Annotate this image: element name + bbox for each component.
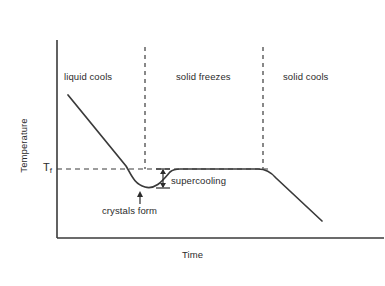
y-axis-label: Temperature: [18, 101, 29, 191]
tf-subscript: f: [50, 166, 52, 175]
region-label-solid-cools: solid cools: [283, 71, 328, 82]
annotation-label-supercooling: supercooling: [171, 175, 226, 186]
cooling-curve: [68, 95, 322, 221]
annotation-label-crystals-form: crystals form: [102, 205, 157, 216]
x-axis-label: Time: [0, 249, 385, 260]
region-label-solid-freezes: solid freezes: [176, 71, 231, 82]
y-axis-tick-tf: Tf: [43, 161, 52, 173]
crystals-form-arrow: [137, 191, 143, 204]
cooling-curve-figure: liquid cools solid freezes solid cools s…: [0, 0, 385, 286]
region-label-liquid-cools: liquid cools: [64, 71, 112, 82]
tf-base: T: [43, 161, 50, 173]
chart-canvas: [0, 0, 385, 286]
